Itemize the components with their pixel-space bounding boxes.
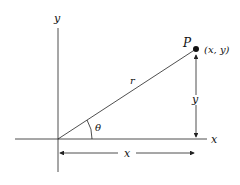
- x-axis-label: x: [211, 133, 218, 146]
- horizontal-dimension-label: x: [124, 147, 131, 160]
- radius-label: r: [130, 75, 136, 86]
- diagram-canvas: y x P (x, y) r θ y x: [0, 0, 240, 185]
- point-name-label: P: [182, 36, 192, 50]
- polar-coordinates-diagram: y x P (x, y) r θ y x: [0, 0, 240, 185]
- y-axis-label: y: [53, 12, 61, 25]
- angle-label: θ: [95, 122, 101, 133]
- vertical-dimension-label: y: [191, 93, 199, 106]
- angle-arc: [87, 120, 92, 139]
- radius-line: [58, 49, 196, 139]
- point-p: [193, 46, 199, 52]
- point-coords-label: (x, y): [204, 44, 230, 55]
